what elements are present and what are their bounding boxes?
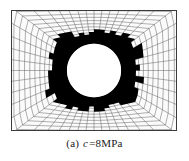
caption-value: =8MPa bbox=[89, 137, 122, 149]
tunnel-hole-region bbox=[67, 44, 121, 98]
mesh-plot bbox=[12, 11, 176, 130]
caption-index: (a) bbox=[66, 137, 79, 149]
plot-frame bbox=[11, 10, 177, 131]
figure-caption: (a) c=8MPa bbox=[0, 136, 189, 150]
figure-container: (a) c=8MPa bbox=[0, 0, 189, 161]
